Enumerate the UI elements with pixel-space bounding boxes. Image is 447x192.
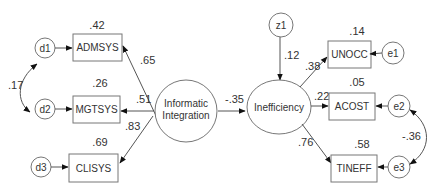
svg-text:Integration: Integration bbox=[162, 110, 209, 121]
z1-value: .12 bbox=[284, 49, 299, 61]
svg-text:Informatic: Informatic bbox=[164, 98, 208, 109]
r2-unocc: .14 bbox=[349, 25, 364, 37]
error-d3: d3 bbox=[31, 157, 51, 177]
error-d2: d2 bbox=[35, 99, 55, 119]
svg-text:TINEFF: TINEFF bbox=[337, 163, 372, 174]
svg-text:ADMSYS: ADMSYS bbox=[76, 42, 119, 53]
svg-text:e1: e1 bbox=[387, 48, 399, 59]
cov-e2-e3-value: -.36 bbox=[402, 130, 421, 142]
latent-inefficiency: Inefficiency bbox=[247, 80, 311, 134]
latent-informatic-integration: Informatic Integration bbox=[155, 80, 217, 142]
r2-mgtsys: .26 bbox=[92, 77, 107, 89]
path-e1-unocc bbox=[370, 53, 382, 54]
indicator-unocc: UNOCC bbox=[328, 41, 371, 68]
svg-text:d2: d2 bbox=[39, 104, 51, 115]
sem-diagram: .17 d1 d2 d3 ADMSYS .42 MGTSYS .26 CLISY… bbox=[0, 0, 447, 192]
svg-text:Inefficiency: Inefficiency bbox=[254, 102, 304, 113]
structural-coefficient: -.35 bbox=[225, 93, 244, 105]
loading-clisys: .83 bbox=[125, 120, 140, 132]
r2-tineff: .58 bbox=[354, 138, 369, 150]
r2-acost: .05 bbox=[349, 76, 364, 88]
loading-unocc: .38 bbox=[305, 60, 320, 72]
svg-text:CLISYS: CLISYS bbox=[76, 163, 112, 174]
indicator-tineff: TINEFF bbox=[331, 155, 377, 182]
indicator-clisys: CLISYS bbox=[69, 154, 118, 182]
indicator-acost: ACOST bbox=[329, 93, 375, 120]
disturbance-z1: z1 bbox=[269, 13, 293, 37]
svg-text:UNOCC: UNOCC bbox=[331, 49, 368, 60]
cov-d1-d2-value: .17 bbox=[8, 79, 23, 91]
error-e3: e3 bbox=[388, 156, 410, 178]
indicator-admsys: ADMSYS bbox=[73, 34, 122, 61]
svg-text:d1: d1 bbox=[39, 43, 51, 54]
indicator-mgtsys: MGTSYS bbox=[73, 96, 120, 123]
svg-text:z1: z1 bbox=[276, 20, 287, 31]
svg-text:e2: e2 bbox=[393, 101, 405, 112]
error-e1: e1 bbox=[382, 42, 404, 64]
loading-tineff: .76 bbox=[298, 136, 313, 148]
r2-admsys: .42 bbox=[89, 19, 104, 31]
error-d1: d1 bbox=[35, 38, 55, 58]
svg-text:ACOST: ACOST bbox=[335, 101, 369, 112]
r2-clisys: .69 bbox=[92, 136, 107, 148]
loading-admsys: .65 bbox=[140, 54, 155, 66]
svg-text:d3: d3 bbox=[35, 162, 47, 173]
error-e2: e2 bbox=[388, 95, 410, 117]
svg-text:MGTSYS: MGTSYS bbox=[75, 104, 118, 115]
loading-acost: .22 bbox=[314, 90, 329, 102]
loading-mgtsys: .51 bbox=[136, 93, 151, 105]
svg-text:e3: e3 bbox=[393, 162, 405, 173]
